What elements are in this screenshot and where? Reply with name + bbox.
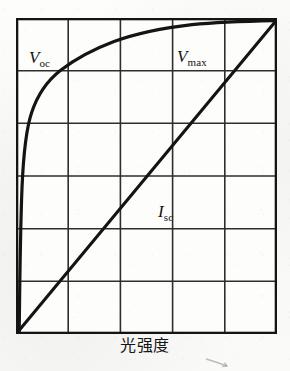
- plot-svg: [16, 18, 277, 334]
- label-voc: Voc: [29, 49, 50, 69]
- plot-area: Voc Vmax Isc: [16, 18, 277, 334]
- label-vmax-symbol: V: [177, 47, 187, 66]
- label-isc-subscript: sc: [164, 211, 174, 223]
- figure-root: Voc Vmax Isc 光强度: [0, 0, 290, 371]
- stray-scan-mark: [205, 358, 229, 368]
- label-voc-subscript: oc: [39, 57, 50, 69]
- label-vmax-subscript: max: [187, 56, 207, 68]
- label-isc: Isc: [158, 203, 173, 223]
- label-voc-symbol: V: [29, 48, 39, 67]
- label-vmax: Vmax: [177, 48, 207, 68]
- x-axis-label: 光强度: [0, 336, 290, 356]
